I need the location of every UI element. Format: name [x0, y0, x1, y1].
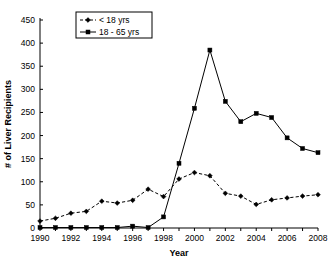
y-tick-label: 0: [30, 223, 35, 233]
y-axis-title: # of Liver Recipients: [3, 80, 13, 168]
data-point-marker: [99, 199, 104, 204]
data-point-marker: [84, 226, 88, 230]
y-tick-label: 50: [26, 200, 36, 210]
data-point-marker: [192, 106, 196, 110]
liver-recipients-line-chart: 050100150200250300350400450 199019921994…: [0, 0, 330, 262]
data-point-marker: [162, 215, 166, 219]
y-tick-label: 150: [21, 154, 35, 164]
chart-legend: < 18 yrs18 - 65 yrs: [76, 12, 152, 38]
series-2: [38, 48, 320, 229]
data-point-marker: [177, 161, 181, 165]
y-tick-label: 250: [21, 107, 35, 117]
data-point-marker: [69, 226, 73, 230]
series-1: [38, 170, 321, 223]
data-point-marker: [68, 211, 73, 216]
y-tick-label: 300: [21, 84, 35, 94]
data-point-marker: [285, 136, 289, 140]
data-point-marker: [146, 226, 150, 230]
y-tick-label: 100: [21, 177, 35, 187]
x-tick-label: 2006: [278, 233, 297, 243]
data-point-marker: [300, 194, 305, 199]
data-point-marker: [316, 192, 321, 197]
data-point-marker: [53, 216, 58, 221]
x-tick-label: 1990: [31, 233, 50, 243]
data-point-marker: [238, 194, 243, 199]
y-tick-label: 450: [21, 15, 35, 25]
data-point-marker: [316, 151, 320, 155]
chart-canvas: 050100150200250300350400450 199019921994…: [0, 0, 330, 262]
x-tick-label: 2008: [309, 233, 328, 243]
x-tick-label: 1998: [154, 233, 173, 243]
x-tick-label: 2002: [216, 233, 235, 243]
data-point-marker: [38, 226, 42, 230]
data-point-marker: [269, 197, 274, 202]
legend-entry-label: < 18 yrs: [99, 15, 129, 25]
x-tick-label: 2004: [247, 233, 266, 243]
y-tick-label: 200: [21, 131, 35, 141]
series-line: [40, 50, 318, 228]
data-point-marker: [223, 99, 227, 103]
legend-entry-label: 18 - 65 yrs: [99, 27, 139, 37]
data-point-marker: [254, 111, 258, 115]
data-point-marker: [208, 48, 212, 52]
data-series-layer: [38, 48, 321, 229]
x-tick-label: 2000: [185, 233, 204, 243]
x-axis-title: Year: [169, 248, 189, 258]
data-point-marker: [115, 201, 120, 206]
data-point-marker: [115, 226, 119, 230]
data-point-marker: [53, 226, 57, 230]
data-point-marker: [100, 226, 104, 230]
x-tick-label: 1992: [61, 233, 80, 243]
data-point-marker: [38, 219, 43, 224]
x-axis-ticks: 1990199219941996199820002002200420062008: [31, 228, 328, 243]
data-point-marker: [301, 146, 305, 150]
data-point-marker: [223, 191, 228, 196]
data-point-marker: [270, 116, 274, 120]
legend-sample-marker: [86, 30, 90, 34]
data-point-marker: [192, 170, 197, 175]
x-tick-label: 1996: [123, 233, 142, 243]
data-point-marker: [177, 177, 182, 182]
y-tick-label: 400: [21, 38, 35, 48]
data-point-marker: [285, 196, 290, 201]
data-point-marker: [131, 224, 135, 228]
data-point-marker: [254, 202, 259, 207]
data-point-marker: [239, 120, 243, 124]
y-tick-label: 350: [21, 61, 35, 71]
x-tick-label: 1994: [92, 233, 111, 243]
